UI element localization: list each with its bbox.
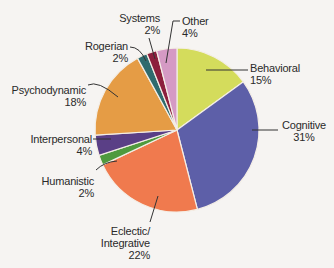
label-interpersonal-name: Interpersonal	[18, 133, 92, 145]
label-rogerian-pct: 2%	[80, 52, 128, 64]
label-humanistic-pct: 2%	[30, 187, 94, 199]
label-other: Other 4%	[182, 15, 209, 39]
label-rogerian: Rogerian 2%	[80, 40, 128, 64]
label-cognitive-name: Cognitive	[282, 119, 326, 131]
label-psychodynamic-name: Psychodynamic	[8, 84, 86, 96]
label-other-name: Other	[182, 15, 209, 27]
label-cognitive-pct: 31%	[278, 131, 330, 143]
label-systems-pct: 2%	[112, 24, 160, 36]
label-systems: Systems 2%	[112, 12, 160, 36]
label-other-pct: 4%	[182, 27, 209, 39]
label-humanistic-name: Humanistic	[30, 175, 94, 187]
label-behavioral: Behavioral 15%	[250, 62, 300, 86]
label-psychodynamic: Psychodynamic 18%	[8, 84, 86, 108]
label-cognitive: Cognitive 31%	[278, 119, 330, 143]
label-eclectic-name1: Eclectic/	[96, 225, 150, 237]
label-eclectic: Eclectic/ Integrative 22%	[96, 225, 150, 261]
label-behavioral-pct: 15%	[250, 74, 300, 86]
label-humanistic: Humanistic 2%	[30, 175, 94, 199]
label-rogerian-name: Rogerian	[80, 40, 128, 52]
label-psychodynamic-pct: 18%	[8, 96, 86, 108]
label-behavioral-name: Behavioral	[250, 62, 300, 74]
label-systems-name: Systems	[112, 12, 160, 24]
label-eclectic-pct: 22%	[96, 249, 150, 261]
label-interpersonal-pct: 4%	[18, 145, 92, 157]
label-eclectic-name2: Integrative	[96, 237, 150, 249]
label-interpersonal: Interpersonal 4%	[18, 133, 92, 157]
pie-slices	[95, 48, 259, 212]
